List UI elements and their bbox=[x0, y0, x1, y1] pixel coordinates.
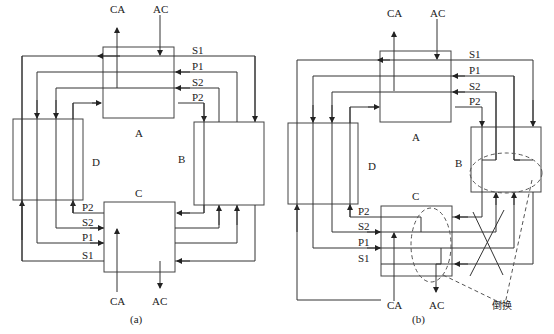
label-ac-top-b: AC bbox=[430, 7, 445, 19]
label-p1-bot-b: P1 bbox=[358, 236, 370, 248]
label-node-a: A bbox=[135, 127, 143, 139]
caption-a: (a) bbox=[130, 313, 143, 326]
p2-right-bottom-b bbox=[452, 192, 482, 217]
p1-left-b bbox=[313, 123, 381, 248]
label-p2-bot-a: P2 bbox=[82, 201, 94, 213]
p2-left-top-a bbox=[73, 103, 100, 119]
label-s2-top-b: S2 bbox=[469, 80, 481, 92]
node-a-box-b bbox=[380, 51, 451, 122]
panel-b: CA AC S1 P1 S2 P2 A D B C P2 S2 P1 S1 CA… bbox=[288, 7, 542, 326]
label-ca-top-b: CA bbox=[387, 7, 402, 19]
p1-ring-a bbox=[37, 72, 237, 243]
label-s2-bot-b: S2 bbox=[358, 220, 370, 232]
label-p1-bot-a: P1 bbox=[82, 231, 94, 243]
label-s2-top-a: S2 bbox=[192, 76, 204, 88]
label-p2-top-b: P2 bbox=[469, 95, 481, 107]
node-d-box-b bbox=[288, 123, 358, 204]
p2-right-top-b bbox=[455, 107, 482, 126]
label-node-b: B bbox=[178, 153, 185, 165]
label-switch: 倒换 bbox=[492, 299, 512, 311]
p2-right-bottom-a bbox=[177, 205, 204, 213]
p2-right-top-a bbox=[178, 103, 204, 121]
ring-protection-diagram: CA AC S1 P1 S2 P2 A D B C P2 S2 P1 S1 CA… bbox=[0, 0, 554, 334]
pointer-line-b bbox=[505, 180, 532, 304]
label-node-b-b: B bbox=[455, 157, 462, 169]
label-s2-bot-a: S2 bbox=[82, 216, 94, 228]
label-p2-bot-b: P2 bbox=[358, 205, 370, 217]
p1-right-bottom-a bbox=[175, 205, 237, 243]
s2-loopback-in-b bbox=[482, 92, 496, 160]
label-p1-top-b: P1 bbox=[469, 64, 481, 76]
label-p2-top-a: P2 bbox=[192, 91, 204, 103]
node-c-box bbox=[104, 202, 175, 272]
s2-ring-a bbox=[56, 88, 219, 228]
label-node-c: C bbox=[135, 187, 142, 199]
label-ac-top-a: AC bbox=[153, 3, 168, 15]
label-node-d-b: D bbox=[368, 160, 376, 172]
panel-a: CA AC S1 P1 S2 P2 A D B C P2 S2 P1 S1 CA… bbox=[13, 3, 264, 326]
label-node-a-b: A bbox=[412, 131, 420, 143]
switch-ellipse-c bbox=[411, 208, 451, 282]
label-ac-bot-b: AC bbox=[429, 299, 444, 311]
p1-ring-top-b bbox=[313, 76, 520, 160]
p1-right-bottom-b bbox=[452, 193, 514, 248]
label-node-c-b: C bbox=[412, 190, 419, 202]
s2-right-bottom-a bbox=[175, 205, 219, 228]
label-s1-top-b: S1 bbox=[469, 48, 481, 60]
label-s1-bot-a: S1 bbox=[82, 249, 94, 261]
label-ca-top-a: CA bbox=[110, 3, 125, 15]
label-node-d: D bbox=[92, 156, 100, 168]
label-ca-bot-a: CA bbox=[110, 295, 125, 307]
s1-ring-a bbox=[22, 56, 255, 261]
caption-b: (b) bbox=[412, 313, 425, 326]
label-ac-bot-a: AC bbox=[152, 295, 167, 307]
s2-left-b bbox=[332, 123, 381, 232]
label-ca-bot-b: CA bbox=[387, 299, 402, 311]
label-p1-top-a: P1 bbox=[192, 60, 204, 72]
s2-right-bottom-b bbox=[452, 193, 496, 232]
label-s1-top-a: S1 bbox=[192, 44, 204, 56]
switch-ellipse-b bbox=[470, 153, 542, 193]
label-s1-bot-b: S1 bbox=[358, 252, 370, 264]
p2-loopback-in-c bbox=[381, 217, 421, 232]
node-a-box bbox=[103, 47, 174, 118]
p2-left-top-b bbox=[350, 107, 378, 123]
